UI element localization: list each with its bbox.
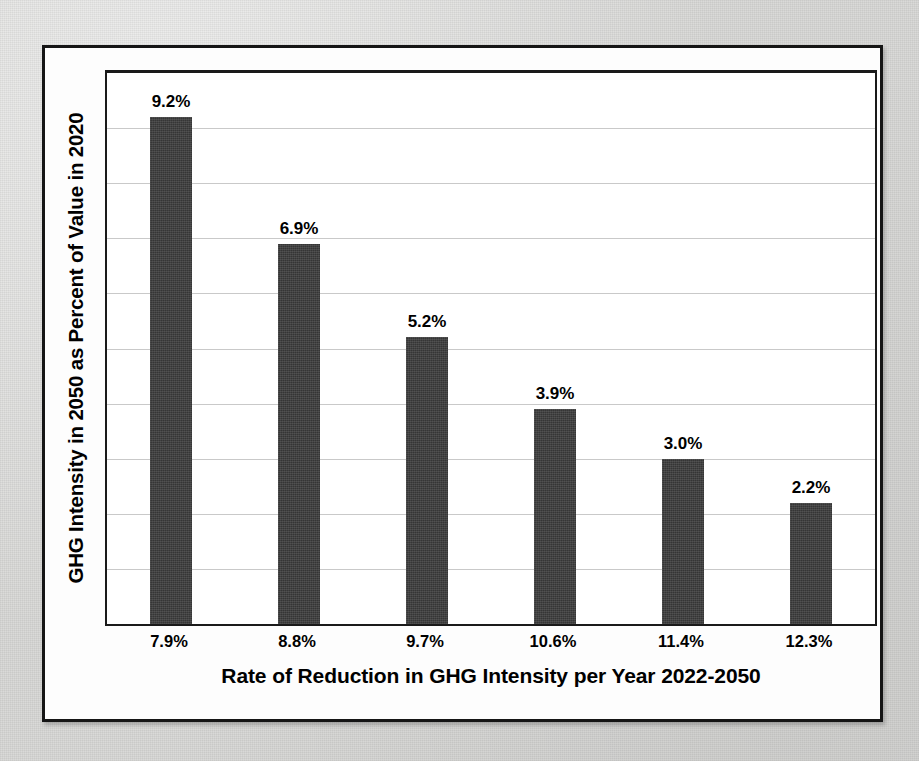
- bar[interactable]: [406, 337, 448, 624]
- bar-slot: 3.9%: [491, 73, 619, 624]
- bar-slot: 9.2%: [107, 73, 235, 624]
- bar[interactable]: [278, 244, 320, 624]
- y-axis-title: GHG Intensity in 2050 as Percent of Valu…: [53, 48, 97, 648]
- chart-figure-frame: GHG Intensity in 2050 as Percent of Valu…: [42, 45, 883, 722]
- x-tick-label: 10.6%: [530, 632, 577, 651]
- bar-slot: 3.0%: [619, 73, 747, 624]
- bar[interactable]: [150, 117, 192, 624]
- plot-area: 9.2%6.9%5.2%3.9%3.0%2.2%: [105, 70, 877, 626]
- bar[interactable]: [534, 409, 576, 624]
- bar-value-label: 3.9%: [536, 384, 575, 404]
- bar-value-label: 9.2%: [152, 92, 191, 112]
- bar-value-label: 2.2%: [792, 478, 831, 498]
- bar-series: 9.2%6.9%5.2%3.9%3.0%2.2%: [107, 73, 875, 624]
- bar[interactable]: [662, 459, 704, 624]
- bar[interactable]: [790, 503, 832, 624]
- x-tick-label: 9.7%: [406, 632, 444, 651]
- x-tick-label: 12.3%: [786, 632, 833, 651]
- bar-value-label: 6.9%: [280, 219, 319, 239]
- bar-value-label: 3.0%: [664, 434, 703, 454]
- bar-slot: 5.2%: [363, 73, 491, 624]
- bar-slot: 6.9%: [235, 73, 363, 624]
- x-tick-label: 7.9%: [150, 632, 188, 651]
- y-axis-title-text: GHG Intensity in 2050 as Percent of Valu…: [63, 112, 87, 583]
- x-axis-title: Rate of Reduction in GHG Intensity per Y…: [105, 664, 877, 688]
- x-tick-label: 11.4%: [658, 632, 704, 651]
- x-axis-tick-labels: 7.9%8.8%9.7%10.6%11.4%12.3%: [105, 632, 877, 662]
- bar-slot: 2.2%: [747, 73, 875, 624]
- bar-value-label: 5.2%: [408, 312, 447, 332]
- x-tick-label: 8.8%: [278, 632, 316, 651]
